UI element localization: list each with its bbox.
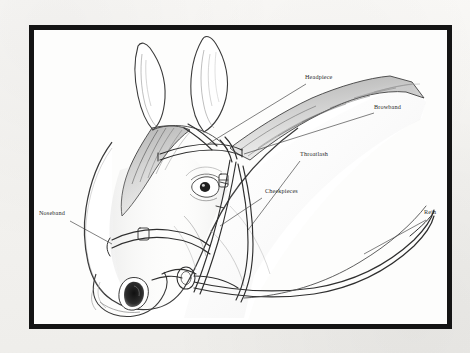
bridle-headpiece-strap xyxy=(184,124,237,162)
horse-ears xyxy=(135,37,228,132)
horse-bridle-illustration xyxy=(34,30,447,324)
label-noseband: Noseband xyxy=(39,210,65,216)
label-rein: Rein xyxy=(424,209,436,215)
label-throatlash: Throatlash xyxy=(300,151,328,157)
label-browband: Browband xyxy=(374,104,401,110)
figure-plate xyxy=(34,30,447,324)
figure-frame-border xyxy=(29,25,452,329)
label-cheekpieces: Cheekpieces xyxy=(265,188,298,194)
figure-page: Headpiece Browband Throatlash Cheekpiece… xyxy=(0,0,470,353)
label-headpiece: Headpiece xyxy=(305,74,332,80)
